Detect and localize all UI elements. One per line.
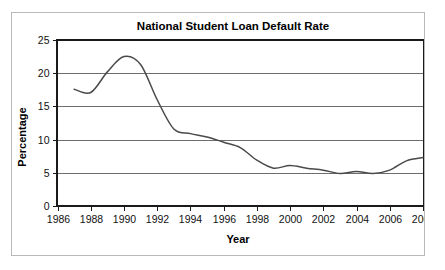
x-tick-label: 2002 (312, 213, 336, 225)
gridlines-group (58, 74, 424, 174)
figure-frame: National Student Loan Default Rate Perce… (11, 12, 425, 256)
y-tick-label: 25 (38, 34, 50, 46)
y-tick-label: 5 (44, 167, 50, 179)
x-tick-label: 1988 (80, 213, 104, 225)
x-tick-label: 2008 (412, 213, 424, 225)
x-tick-label: 1998 (246, 213, 270, 225)
x-tick-label: 2004 (346, 213, 370, 225)
x-tick-label: 2000 (279, 213, 303, 225)
line-chart: National Student Loan Default Rate Perce… (12, 13, 424, 255)
x-tick-label: 1996 (213, 213, 237, 225)
x-tick-label: 2006 (379, 213, 403, 225)
x-tick-label: 1994 (179, 213, 203, 225)
y-tick-label: 10 (38, 134, 50, 146)
x-tick-label: 1992 (146, 213, 170, 225)
x-axis-title: Year (226, 233, 250, 245)
y-tick-label: 0 (44, 200, 50, 212)
y-tick-labels-group: 0510152025 (38, 34, 50, 212)
x-tick-label: 1986 (47, 213, 71, 225)
y-tick-label: 15 (38, 100, 50, 112)
x-tick-labels-group: 1986198819901992199419961998200020022004… (47, 213, 424, 225)
chart-title: National Student Loan Default Rate (137, 20, 329, 32)
y-tick-label: 20 (38, 67, 50, 79)
plot-area-border (57, 40, 424, 206)
y-axis-title: Percentage (16, 107, 28, 166)
x-tick-label: 1990 (113, 213, 137, 225)
